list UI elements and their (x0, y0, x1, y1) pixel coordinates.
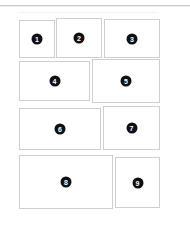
cell-number-badge: 2 (74, 33, 85, 44)
grid-cell-3[interactable]: 3 (104, 19, 160, 58)
cell-number-badge: 3 (127, 33, 138, 44)
cell-number-badge: 1 (32, 34, 43, 45)
grid-cell-2[interactable]: 2 (56, 18, 102, 58)
cell-number-badge: 5 (121, 76, 132, 87)
bottom-edge-fade (0, 219, 190, 220)
grid-cell-5[interactable]: 5 (92, 59, 160, 103)
grid-cell-1[interactable]: 1 (19, 20, 55, 58)
grid-cell-7[interactable]: 7 (103, 106, 160, 150)
grid-cell-6[interactable]: 6 (19, 108, 101, 150)
grid-cell-4[interactable]: 4 (19, 61, 90, 101)
cell-number-badge: 6 (55, 124, 66, 135)
photo-grid: 123456789 (0, 0, 190, 225)
grid-cell-8[interactable]: 8 (19, 155, 113, 209)
cell-number-badge: 7 (126, 123, 137, 134)
cell-number-badge: 8 (61, 177, 72, 188)
cell-number-badge: 4 (49, 76, 60, 87)
cell-number-badge: 9 (132, 177, 143, 188)
grid-cell-9[interactable]: 9 (115, 157, 160, 208)
screenshot-canvas: 123456789 (0, 0, 190, 225)
